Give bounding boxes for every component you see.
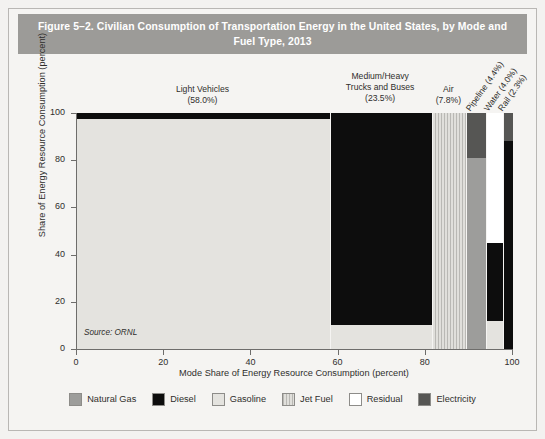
- legend-item-jet-fuel[interactable]: Jet Fuel: [282, 393, 333, 406]
- column-divider: [503, 113, 504, 349]
- segment-rail-diesel: [503, 141, 513, 349]
- legend-item-natural-gas[interactable]: Natural Gas: [69, 393, 136, 406]
- segment-pipeline-electricity: [466, 113, 485, 158]
- mode-label-line: Medium/Heavy: [319, 71, 441, 82]
- segment-pipeline-natural-gas: [466, 158, 485, 349]
- y-tick-label: 40: [39, 249, 65, 259]
- legend-label: Natural Gas: [87, 394, 136, 404]
- x-tick-label: 20: [148, 357, 178, 367]
- chart-area: Share of Energy Resource Consumption (pe…: [8, 56, 537, 376]
- plot-area: [76, 113, 513, 350]
- x-tick-label: 40: [235, 357, 265, 367]
- chart-legend: Natural GasDieselGasolineJet FuelResidua…: [18, 386, 527, 412]
- legend-swatch-gasoline-icon: [212, 393, 225, 406]
- legend-item-electricity[interactable]: Electricity: [418, 393, 475, 406]
- mode-label-line: Air: [418, 84, 478, 95]
- x-tick-mark: [425, 350, 426, 355]
- y-tick-label: 0: [39, 343, 65, 353]
- source-note: Source: ORNL: [84, 328, 137, 337]
- legend-swatch-natural-gas-icon: [69, 393, 82, 406]
- legend-label: Residual: [367, 394, 403, 404]
- x-tick-mark: [76, 350, 77, 355]
- legend-label: Diesel: [170, 394, 196, 404]
- column-divider: [330, 113, 331, 349]
- legend-swatch-diesel-icon: [152, 393, 165, 406]
- y-tick-label: 80: [39, 154, 65, 164]
- legend-swatch-electricity-icon: [418, 393, 431, 406]
- figure-title-bar: Figure 5–2. Civilian Consumption of Tran…: [18, 14, 527, 54]
- segment-water-diesel: [486, 243, 503, 321]
- segment-light-vehicles-diesel: [77, 113, 330, 119]
- segment-light-vehicles-gasoline: [77, 119, 330, 349]
- legend-swatch-residual-icon: [349, 393, 362, 406]
- legend-item-gasoline[interactable]: Gasoline: [212, 393, 266, 406]
- y-tick-label: 60: [39, 201, 65, 211]
- segment-medium-heavy-trucks-and-buses-gasoline: [330, 325, 432, 349]
- legend-label: Electricity: [436, 394, 475, 404]
- segment-air-jet-fuel: [432, 113, 466, 349]
- segment-rail-electricity: [503, 113, 513, 141]
- x-tick-label: 0: [61, 357, 91, 367]
- segment-water-residual: [486, 113, 503, 243]
- mode-label-line: (58.0%): [66, 95, 339, 106]
- y-axis-label: Share of Energy Resource Consumption (pe…: [37, 25, 47, 245]
- legend-item-residual[interactable]: Residual: [349, 393, 403, 406]
- column-divider: [432, 113, 433, 349]
- legend-swatch-jet-fuel-icon: [282, 393, 295, 406]
- x-tick-mark: [512, 350, 513, 355]
- segment-water-gasoline: [486, 321, 503, 349]
- x-tick-mark: [250, 350, 251, 355]
- y-tick-label: 100: [39, 107, 65, 117]
- legend-label: Jet Fuel: [300, 394, 333, 404]
- x-tick-mark: [163, 350, 164, 355]
- x-tick-label: 80: [410, 357, 440, 367]
- x-tick-label: 60: [323, 357, 353, 367]
- column-divider: [486, 113, 487, 349]
- x-axis-label: Mode Share of Energy Resource Consumptio…: [76, 368, 512, 378]
- page-title: Figure 5–2. Civilian Consumption of Tran…: [34, 19, 511, 49]
- legend-label: Gasoline: [230, 394, 266, 404]
- figure-screenshot: Figure 5–2. Civilian Consumption of Tran…: [0, 0, 545, 439]
- y-tick-label: 20: [39, 296, 65, 306]
- mode-label-light-vehicles: Light Vehicles(58.0%): [66, 84, 339, 106]
- column-divider: [466, 113, 467, 349]
- mode-label-line: Light Vehicles: [66, 84, 339, 95]
- segment-medium-heavy-trucks-and-buses-diesel: [330, 113, 432, 325]
- x-tick-label: 100: [497, 357, 527, 367]
- x-tick-mark: [338, 350, 339, 355]
- legend-item-diesel[interactable]: Diesel: [152, 393, 196, 406]
